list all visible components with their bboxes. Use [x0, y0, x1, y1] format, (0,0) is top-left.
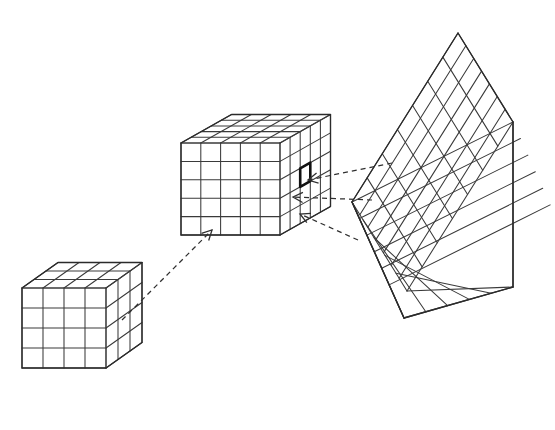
small-cube-group [22, 263, 142, 369]
medium-cube-group [181, 115, 331, 236]
isometric-zoom-diagram [0, 0, 555, 430]
diagram-canvas [0, 0, 555, 430]
medium-cube-front-face [181, 143, 280, 235]
